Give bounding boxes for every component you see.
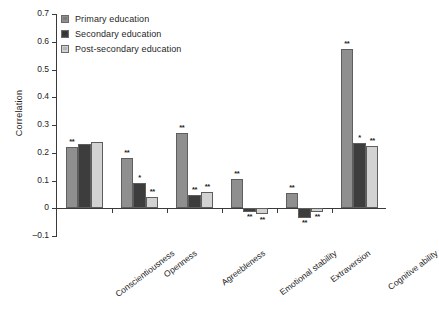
bar (231, 179, 243, 208)
x-axis-group-tick (112, 208, 113, 213)
y-axis-tick-label: 0.3 (37, 119, 49, 130)
bar (256, 208, 268, 214)
bar (133, 183, 145, 208)
y-axis-tick: 0.1 (52, 181, 57, 182)
y-axis-tick-label: 0.7 (37, 8, 49, 19)
significance-marker: ** (143, 189, 161, 195)
y-axis-tick-label: 0.1 (37, 175, 49, 186)
bar (66, 147, 78, 208)
bar (353, 143, 365, 208)
y-axis-tick-label: 0.6 (37, 36, 49, 47)
y-axis-tick-label: 0.4 (37, 91, 49, 102)
x-category-label: Agreebleness (219, 248, 267, 287)
bar (78, 144, 90, 208)
y-axis-tick: 0.7 (52, 14, 57, 15)
y-axis-tick-label: 0.5 (37, 64, 49, 75)
zero-baseline (56, 208, 386, 209)
significance-marker: ** (173, 125, 191, 131)
bar (341, 49, 353, 209)
y-axis-tick: 0 (52, 208, 57, 209)
significance-marker: ** (228, 171, 246, 177)
bar (188, 195, 200, 208)
x-axis-group-tick (277, 208, 278, 213)
y-axis-tick: 0.5 (52, 70, 57, 71)
significance-marker: ** (283, 185, 301, 191)
y-axis-title: Correlation (14, 58, 24, 168)
significance-marker: ** (363, 138, 381, 144)
significance-marker: ** (198, 184, 216, 190)
x-category-label: Cognitive ability (385, 248, 439, 292)
y-axis-tick: –0.1 (52, 236, 57, 237)
y-axis-tick: 0.2 (52, 153, 57, 154)
significance-marker: ** (308, 214, 326, 220)
bar (366, 146, 378, 208)
y-axis-tick: 0.3 (52, 125, 57, 126)
bar (91, 142, 103, 209)
significance-marker: ** (118, 150, 136, 156)
significance-marker: ** (295, 220, 313, 226)
y-axis-tick-label: 0 (44, 202, 49, 213)
bar (311, 208, 323, 211)
y-axis-tick-label: –0.1 (32, 230, 49, 241)
bar (121, 158, 133, 208)
y-axis-tick: 0.6 (52, 42, 57, 43)
bar (201, 192, 213, 209)
x-axis-group-tick (332, 208, 333, 213)
x-axis-group-tick (222, 208, 223, 213)
bar (176, 133, 188, 208)
plot-area: 0.70.60.50.40.30.20.10–0.1 *************… (56, 14, 386, 236)
bar (146, 197, 158, 208)
y-axis-tick-label: 0.2 (37, 147, 49, 158)
bar (243, 208, 255, 211)
significance-marker: * (130, 175, 148, 181)
y-axis-tick: 0.4 (52, 97, 57, 98)
x-category-label: Emotional stability (277, 248, 338, 297)
significance-marker: ** (253, 217, 271, 223)
significance-marker: ** (338, 41, 356, 47)
bar (286, 193, 298, 208)
x-axis-group-tick (167, 208, 168, 213)
